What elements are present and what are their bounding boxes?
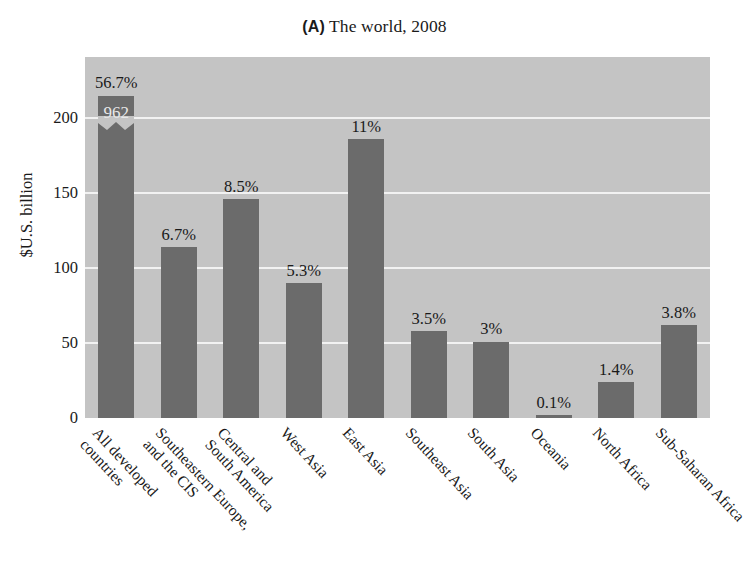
bar-column: 3.8% [661, 57, 697, 418]
bar-value-label: 962 [104, 104, 130, 121]
x-tick-label: East Asia [340, 424, 392, 478]
bar-percent-label: 3% [480, 321, 502, 338]
y-tick-label: 150 [18, 185, 78, 202]
bar-percent-label: 5.3% [287, 263, 321, 280]
chart-title: (A) The world, 2008 [0, 16, 749, 37]
bar[interactable] [411, 331, 447, 418]
y-tick-label: 50 [18, 335, 78, 352]
x-tick-label-line: West Asia [277, 424, 332, 481]
y-tick-label: 100 [18, 260, 78, 277]
plot-area: 96256.7%6.7%8.5%5.3%11%3.5%3%0.1%1.4%3.8… [85, 57, 710, 418]
bar[interactable] [98, 96, 134, 418]
x-tick-label: North Africa [590, 424, 656, 493]
panel-letter: (A) [302, 18, 325, 35]
bar-percent-label: 3.5% [412, 311, 446, 328]
x-tick-label-line: Sub-Saharan Africa [652, 424, 748, 525]
bar-column: 6.7% [161, 57, 197, 418]
x-tick-label: Sub-Saharan Africa [652, 424, 748, 525]
y-tick-label: 200 [18, 110, 78, 127]
bar-column: 11% [348, 57, 384, 418]
bar-percent-label: 1.4% [599, 362, 633, 379]
x-tick-labels: All developedcountriesSoutheastern Europ… [85, 418, 710, 577]
bar-column: 0.1% [536, 57, 572, 418]
x-tick-label: Oceania [527, 424, 574, 473]
bar-column: 1.4% [598, 57, 634, 418]
x-tick-label: West Asia [277, 424, 332, 481]
bar[interactable] [161, 247, 197, 418]
x-tick-label-line: North Africa [590, 424, 656, 493]
bar-column: 3.5% [411, 57, 447, 418]
bar-percent-label: 11% [351, 119, 381, 136]
bar-percent-label: 3.8% [662, 305, 696, 322]
bar-column: 8.5% [223, 57, 259, 418]
bar-column: 3% [473, 57, 509, 418]
bar-percent-label: 8.5% [224, 179, 258, 196]
chart-title-text: The world, 2008 [329, 16, 447, 36]
bar-column: 5.3% [286, 57, 322, 418]
x-tick-label: South Asia [465, 424, 524, 485]
bar-percent-label: 0.1% [537, 395, 571, 412]
chart-figure: (A) The world, 2008 $U.S. billion 050100… [0, 0, 749, 577]
bar[interactable] [223, 199, 259, 418]
x-tick-label-line: South Asia [465, 424, 524, 485]
x-tick-label-line: Oceania [527, 424, 574, 473]
bar[interactable] [348, 139, 384, 418]
y-tick-label: 0 [18, 410, 78, 427]
y-axis-label: $U.S. billion [17, 125, 37, 305]
bar-percent-label: 6.7% [162, 227, 196, 244]
bar-column: 96256.7% [98, 57, 134, 418]
bar[interactable] [286, 283, 322, 418]
bar[interactable] [473, 342, 509, 418]
bar[interactable] [661, 325, 697, 418]
bar[interactable] [598, 382, 634, 418]
x-tick-label-line: East Asia [340, 424, 392, 478]
bar-percent-label: 56.7% [95, 75, 138, 92]
